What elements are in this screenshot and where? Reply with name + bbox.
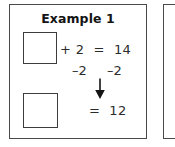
equation-row-2-right-operand: –2: [107, 64, 122, 77]
answer-box-top[interactable]: [23, 32, 57, 64]
example-panel-2: [163, 4, 175, 139]
down-arrow-icon: [93, 78, 107, 100]
answer-box-bottom[interactable]: [23, 93, 58, 128]
page-title: Example 1: [10, 13, 146, 26]
equation-row-3-result: = 12: [89, 104, 127, 117]
equation-row-2-left-operand: –2: [72, 64, 87, 77]
example-panel-1: Example 1 + 2 = 14 –2 –2 = 12: [9, 4, 147, 139]
equation-row-1: + 2 = 14: [60, 43, 131, 56]
